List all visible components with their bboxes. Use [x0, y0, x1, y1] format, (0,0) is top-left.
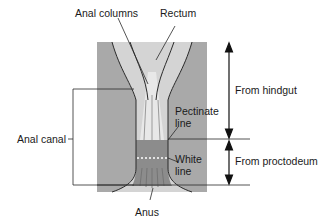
label-anal-columns: Anal columns [75, 7, 138, 19]
label-anus: Anus [135, 206, 159, 218]
label-pectinate-line-1: Pectinate [175, 105, 219, 117]
label-white-line: White line [175, 153, 202, 177]
label-from-proctodeum: From proctodeum [235, 155, 318, 167]
region-arrows [226, 43, 233, 184]
label-pectinate-line-2: line [175, 117, 219, 129]
label-white-line-2: line [175, 165, 202, 177]
label-pectinate-line: Pectinate line [175, 105, 219, 129]
label-from-hindgut: From hindgut [235, 84, 297, 96]
label-rectum: Rectum [160, 7, 196, 19]
label-white-line-1: White [175, 153, 202, 165]
anal-canal-diagram [0, 0, 330, 223]
label-anal-canal: Anal canal [17, 133, 66, 145]
